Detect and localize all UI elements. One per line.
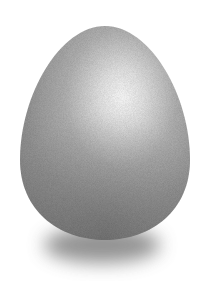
egg-body-group [20, 26, 190, 240]
egg-illustration-scene [0, 0, 211, 286]
egg-lower-shading [20, 26, 190, 240]
egg-illustration [0, 0, 211, 286]
